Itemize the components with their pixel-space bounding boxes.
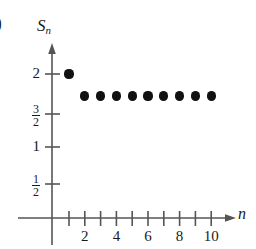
data-point — [128, 91, 137, 100]
data-point — [112, 91, 121, 100]
data-point — [64, 69, 73, 78]
sequence-partial-sums-plot: b) Sn n 2 3 2 — [0, 0, 256, 249]
data-point — [143, 91, 152, 100]
data-points-layer — [0, 0, 256, 249]
data-point — [191, 91, 200, 100]
data-point — [175, 91, 184, 100]
data-point — [159, 91, 168, 100]
data-point — [96, 91, 105, 100]
data-point — [80, 91, 89, 100]
data-point — [207, 91, 216, 100]
